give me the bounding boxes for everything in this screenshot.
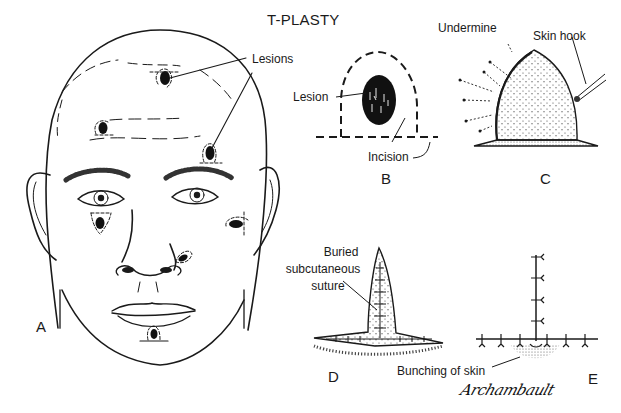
t-plasty-figure: T-PLASTY Lesions A Lesion Incision B Und… [0,0,621,413]
panel-letter-a: A [36,320,46,334]
panel-a-face-drawing [27,30,279,365]
right-eyebrow-icon [166,169,232,178]
left-ear-icon [27,173,56,260]
mouth-icon [112,303,195,311]
skin-hook-icon [576,74,606,101]
panel-letter-d: D [328,370,339,384]
bunching-hatch-icon [314,346,443,354]
label-lesions: Lesions [252,52,293,66]
panel-b-diagram [316,52,438,158]
jaw-outline-icon [62,290,244,365]
label-skin-hook: Skin hook [533,29,586,43]
nose-icon [122,210,176,270]
callout-line-lesions-1 [170,58,246,78]
panel-c-diagram [459,37,607,146]
lesion-icon [362,75,396,125]
panel-letter-c: C [540,172,551,186]
callout-line-incision-b [413,142,430,158]
label-suture-line2: subcutaneous [278,262,368,276]
callout-line-skin-hook [572,37,586,84]
panel-letter-b: B [381,172,391,186]
artist-signature: Archambault [458,381,557,399]
label-undermine: Undermine [438,21,497,35]
suture-knots-icon [479,254,588,347]
panel-letter-e: E [588,372,598,386]
label-suture-line3: suture [288,279,368,293]
panel-e-diagram [476,254,598,367]
callout-line-bunching [492,357,520,367]
figure-title: T-PLASTY [267,13,339,27]
label-bunching-of-skin: Bunching of skin [397,364,485,378]
label-suture-line1: Buried [296,245,386,259]
skin-bunching-stipple-icon [510,344,560,358]
illustration-canvas [0,0,621,413]
left-eyebrow-icon [66,170,128,180]
lesion-markers [91,69,248,341]
callout-line-incision-a [392,118,405,142]
label-lesion: Lesion [293,90,328,104]
flap-undermined-icon [496,50,577,140]
label-incision: Incision [368,150,409,164]
